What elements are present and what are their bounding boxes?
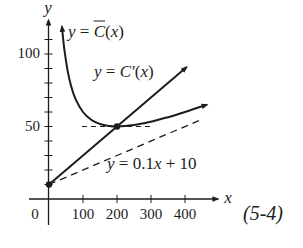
avg-eq: = [76,22,94,41]
y-tick-label-100: 100 [18,46,41,61]
asymptote-dashed-line [49,120,200,185]
asym-lhs: y [107,154,115,173]
x-tick-label-200: 200 [106,207,129,222]
avg-fn: C [94,22,105,41]
figure-number: (5-4) [243,203,283,223]
mc-arg: x [140,62,148,81]
y-tick-label-50: 50 [25,119,40,134]
mc-lhs: y [94,62,102,81]
asymptote-label: y = 0.1x + 10 [107,155,197,172]
marked-point [46,181,52,187]
marked-point [114,123,120,129]
asym-rhs: = 0.1 [115,154,154,173]
mc-close: ) [148,62,154,81]
origin-label: 0 [31,207,39,222]
marginal-cost-label: y = C′(x) [94,63,154,80]
avg-lhs: y [68,22,76,41]
asym-tail: + 10 [161,154,196,173]
mc-eq: = [102,62,120,81]
x-axis-label: x [224,189,232,206]
x-tick-label-400: 400 [174,207,197,222]
x-tick-label-300: 300 [140,207,163,222]
average-cost-label: y = C(x) [68,23,124,40]
y-axis-label: y [44,0,52,16]
avg-close: ) [118,22,124,41]
mc-fn: C′ [120,62,135,81]
x-tick-label-100: 100 [72,207,95,222]
